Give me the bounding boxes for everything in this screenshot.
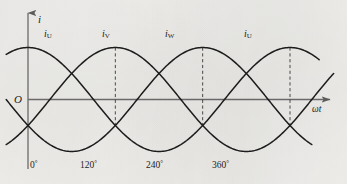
origin-label: O — [14, 94, 22, 105]
tick-unit: ° — [226, 159, 229, 167]
tick-label-240deg: 240° — [146, 160, 163, 171]
curve-label-sub: W — [168, 32, 175, 40]
tick-label-360deg: 360° — [212, 160, 229, 171]
tick-label-120deg: 120° — [80, 160, 97, 171]
curve-label-sub: V — [105, 32, 110, 40]
curve-label-iv: iV — [102, 29, 110, 40]
tick-unit: ° — [35, 159, 38, 167]
x-axis-label: ωt — [312, 105, 321, 115]
curve-label-iw: iW — [165, 29, 174, 40]
y-axis-label: i — [38, 14, 41, 25]
curve-label-sub: U — [47, 32, 52, 40]
curve-label-iu-second: iU — [244, 29, 252, 40]
curve-label-iu-first: iU — [44, 29, 52, 40]
three-phase-current-waveform-figure: i ωt O iU iV iW iU 0° 120° 240° 360° — [0, 0, 347, 184]
dashed-vertical-lines-group — [115, 48, 290, 126]
tick-label-0deg: 0° — [30, 160, 38, 171]
tick-value: 240 — [146, 160, 160, 170]
curve-label-sub: U — [247, 32, 252, 40]
waveform-plot-svg — [0, 0, 347, 184]
tick-value: 360 — [212, 160, 226, 170]
tick-unit: ° — [94, 159, 97, 167]
tick-value: 120 — [80, 160, 94, 170]
tick-unit: ° — [160, 159, 163, 167]
